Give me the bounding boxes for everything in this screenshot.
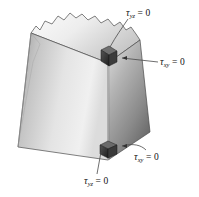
tau-subscript: xy: [138, 156, 144, 163]
stress-element-figure: τyz = 0 τxy = 0 τxy = 0 τyz = 0: [0, 0, 199, 197]
equals-zero: = 0: [138, 8, 151, 18]
tau-subscript: yz: [130, 12, 135, 19]
equals-zero: = 0: [146, 152, 159, 162]
label-tau-yz-bottom: τyz = 0: [84, 176, 108, 187]
label-tau-xy-right: τxy = 0: [160, 57, 185, 68]
equals-zero: = 0: [96, 176, 109, 186]
equals-zero: = 0: [172, 57, 185, 67]
block-illustration: [0, 0, 199, 197]
tau-subscript: xy: [164, 61, 170, 68]
tau-subscript: yz: [88, 180, 93, 187]
label-tau-xy-bottom: τxy = 0: [134, 152, 159, 163]
label-tau-yz-top: τyz = 0: [126, 8, 150, 19]
